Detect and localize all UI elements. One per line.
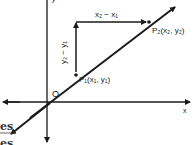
point-p1-label: P₁(x₁, y₁)	[79, 76, 110, 84]
footer-text-line1: es	[0, 121, 13, 132]
point-p2-label: P₂(x₂, y₂)	[152, 27, 184, 35]
footer-text-line2: es	[0, 138, 13, 145]
origin-label: O	[52, 90, 59, 99]
y-axis-label: y	[52, 0, 56, 3]
coordinate-diagram	[0, 0, 195, 145]
point-p1	[74, 73, 78, 77]
vertical-arrow-label: y₂ − y₁	[60, 41, 68, 64]
x-axis-label: x	[183, 107, 187, 114]
horizontal-arrow-label: x₂ − x₁	[95, 11, 118, 19]
line-p1-p2	[12, 3, 80, 135]
line-p1-p2-backward	[11, 103, 50, 134]
point-p2	[147, 20, 151, 24]
